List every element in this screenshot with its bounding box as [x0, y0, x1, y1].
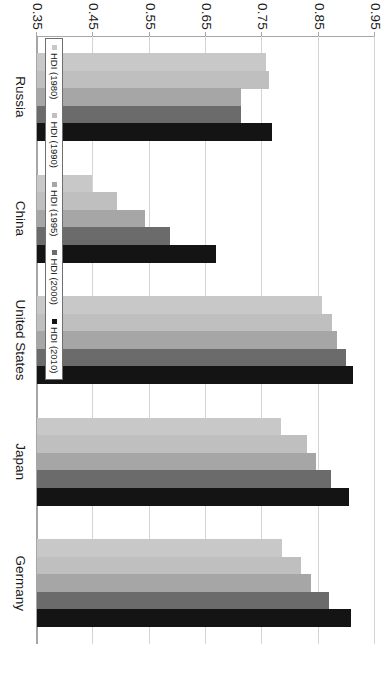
- bar: [37, 331, 337, 349]
- tick-mark: [374, 32, 375, 36]
- bar: [37, 592, 329, 610]
- bar-group: Japan: [37, 418, 375, 506]
- category-label: United States: [13, 296, 28, 384]
- bar: [37, 314, 332, 332]
- bar: [37, 557, 301, 575]
- value-tick-label: 0.95: [368, 3, 383, 30]
- chart-legend: HDI (1980) HDI (1990) HDI (1995) HDI (20…: [46, 38, 64, 380]
- legend-swatch-hdi-1980: [52, 45, 57, 50]
- value-axis-line: [37, 36, 375, 37]
- bar: [37, 539, 282, 557]
- plot-area: 0.950.850.750.650.550.450.35 RussiaChina…: [37, 36, 375, 644]
- value-tick-label: 0.85: [311, 3, 326, 30]
- legend-swatch-hdi-1995: [52, 182, 57, 187]
- bar: [37, 453, 316, 471]
- bar: [37, 418, 281, 436]
- bar: [37, 53, 266, 71]
- legend-swatch-hdi-2000: [52, 250, 57, 255]
- bar: [37, 349, 346, 367]
- legend-entry-hdi-1990: HDI (1990): [50, 113, 60, 167]
- tick-mark: [149, 32, 150, 36]
- bar: [37, 88, 241, 106]
- category-label: Japan: [13, 418, 28, 506]
- bar-group: Germany: [37, 539, 375, 627]
- legend-label-hdi-1995: HDI (1995): [50, 190, 60, 236]
- bar: [37, 435, 307, 453]
- tick-mark: [36, 32, 37, 36]
- tick-mark: [261, 32, 262, 36]
- value-tick-label: 0.65: [199, 3, 214, 30]
- legend-label-hdi-1980: HDI (1980): [50, 53, 60, 99]
- bar: [37, 106, 241, 124]
- bar-group: United States: [37, 296, 375, 384]
- bar-group: Russia: [37, 53, 375, 141]
- legend-entry-hdi-2000: HDI (2000): [50, 250, 60, 304]
- legend-entry-hdi-1980: HDI (1980): [50, 45, 60, 99]
- legend-swatch-hdi-1990: [52, 113, 57, 118]
- legend-entry-hdi-2010: HDI (2010): [50, 319, 60, 373]
- bar: [37, 366, 353, 384]
- rotated-chart-frame: 0.950.850.750.650.550.450.35 RussiaChina…: [0, 0, 385, 692]
- bar: [37, 574, 311, 592]
- bar-chart: 0.950.850.750.650.550.450.35 RussiaChina…: [0, 0, 385, 692]
- value-tick-label: 0.45: [86, 3, 101, 30]
- category-label: Russia: [13, 53, 28, 141]
- bar-group: China: [37, 175, 375, 263]
- legend-label-hdi-2010: HDI (2010): [50, 327, 60, 373]
- legend-swatch-hdi-2010: [52, 319, 57, 324]
- tick-mark: [318, 32, 319, 36]
- value-tick-label: 0.75: [255, 3, 270, 30]
- category-label: Germany: [13, 539, 28, 627]
- bar: [37, 470, 331, 488]
- legend-entry-hdi-1995: HDI (1995): [50, 182, 60, 236]
- legend-label-hdi-2000: HDI (2000): [50, 258, 60, 304]
- value-tick-label: 0.55: [142, 3, 157, 30]
- tick-mark: [92, 32, 93, 36]
- bar: [37, 245, 216, 263]
- bar: [37, 296, 322, 314]
- bar: [37, 71, 269, 89]
- bar: [37, 123, 272, 141]
- value-tick-label: 0.35: [30, 3, 45, 30]
- bar: [37, 609, 351, 627]
- legend-label-hdi-1990: HDI (1990): [50, 121, 60, 167]
- tick-mark: [205, 32, 206, 36]
- category-label: China: [13, 175, 28, 263]
- bar: [37, 488, 349, 506]
